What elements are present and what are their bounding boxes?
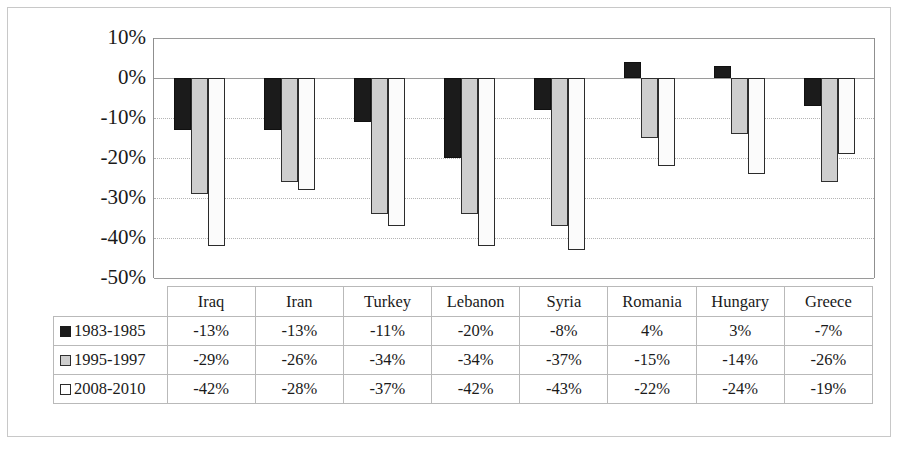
table-cell: -8% (520, 317, 608, 346)
y-axis-tick-label: 10% (8, 27, 146, 48)
table-column-header: Iraq (167, 287, 255, 317)
plot-area (153, 38, 875, 278)
table-cell: 4% (608, 317, 696, 346)
table-column-header: Romania (608, 287, 696, 317)
bar[interactable] (478, 78, 495, 246)
y-axis-tick-label: -20% (8, 147, 146, 168)
bar[interactable] (838, 78, 855, 154)
table-cell: -24% (696, 375, 784, 404)
table-column-header: Iran (255, 287, 343, 317)
bar-group (244, 38, 334, 278)
bar[interactable] (388, 78, 405, 226)
table-cell: -15% (608, 346, 696, 375)
table-cell: -20% (432, 317, 520, 346)
legend-label: 1995-1997 (74, 350, 146, 369)
bar-group (514, 38, 604, 278)
bar[interactable] (371, 78, 388, 214)
table-cell: -13% (167, 317, 255, 346)
bar[interactable] (298, 78, 315, 190)
table-cell: 3% (696, 317, 784, 346)
table-row: 1983-1985-13%-13%-11%-20%-8%4%3%-7% (54, 317, 873, 346)
bar-series-container (154, 38, 874, 278)
table-cell: -22% (608, 375, 696, 404)
bar[interactable] (264, 78, 281, 130)
legend-label: 1983-1985 (74, 321, 146, 340)
table-cell: -7% (784, 317, 872, 346)
legend-entry[interactable]: 2008-2010 (54, 375, 168, 404)
table-cell: -42% (167, 375, 255, 404)
bar[interactable] (641, 78, 658, 138)
bar[interactable] (534, 78, 551, 110)
legend-label: 2008-2010 (74, 379, 146, 398)
bar-group (694, 38, 784, 278)
bar[interactable] (624, 62, 641, 78)
legend-swatch-icon (60, 355, 71, 366)
y-axis-tick-label: -30% (8, 187, 146, 208)
table-corner-cell (54, 287, 168, 317)
table-row: 2008-2010-42%-28%-37%-42%-43%-22%-24%-19… (54, 375, 873, 404)
y-axis-tick-label: -10% (8, 107, 146, 128)
table-cell: -26% (255, 346, 343, 375)
bar-group (334, 38, 424, 278)
bar-group (424, 38, 514, 278)
y-axis-tick-label: -50% (8, 267, 146, 288)
bar[interactable] (281, 78, 298, 182)
table-column-header: Greece (784, 287, 872, 317)
table-column-header: Syria (520, 287, 608, 317)
chart-figure: 10%0%-10%-20%-30%-40%-50% IraqIranTurkey… (7, 7, 891, 437)
bar[interactable] (714, 66, 731, 78)
table-cell: -19% (784, 375, 872, 404)
table-cell: -14% (696, 346, 784, 375)
bar-group (784, 38, 874, 278)
legend-entry[interactable]: 1983-1985 (54, 317, 168, 346)
legend-entry[interactable]: 1995-1997 (54, 346, 168, 375)
bar[interactable] (208, 78, 225, 246)
bar[interactable] (444, 78, 461, 158)
table-cell: -43% (520, 375, 608, 404)
bar-group (604, 38, 694, 278)
bar[interactable] (354, 78, 371, 122)
table-cell: -13% (255, 317, 343, 346)
bar[interactable] (551, 78, 568, 226)
table-cell: -34% (432, 346, 520, 375)
y-axis: 10%0%-10%-20%-30%-40%-50% (8, 8, 146, 318)
table-column-header: Hungary (696, 287, 784, 317)
data-table: IraqIranTurkeyLebanonSyriaRomaniaHungary… (53, 286, 873, 404)
bar[interactable] (731, 78, 748, 134)
table-cell: -26% (784, 346, 872, 375)
bar[interactable] (461, 78, 478, 214)
table-cell: -42% (432, 375, 520, 404)
table-cell: -28% (255, 375, 343, 404)
bar[interactable] (821, 78, 838, 182)
table-header-row: IraqIranTurkeyLebanonSyriaRomaniaHungary… (54, 287, 873, 317)
table-column-header: Lebanon (432, 287, 520, 317)
table-row: 1995-1997-29%-26%-34%-34%-37%-15%-14%-26… (54, 346, 873, 375)
data-table-container: IraqIranTurkeyLebanonSyriaRomaniaHungary… (53, 286, 873, 404)
bar[interactable] (191, 78, 208, 194)
y-axis-tick-label: 0% (8, 67, 146, 88)
bar[interactable] (748, 78, 765, 174)
legend-swatch-icon (60, 326, 71, 337)
bar[interactable] (804, 78, 821, 106)
table-cell: -34% (343, 346, 431, 375)
bar[interactable] (658, 78, 675, 166)
table-column-header: Turkey (343, 287, 431, 317)
bar[interactable] (568, 78, 585, 250)
table-cell: -37% (520, 346, 608, 375)
table-cell: -29% (167, 346, 255, 375)
bar[interactable] (174, 78, 191, 130)
table-cell: -11% (343, 317, 431, 346)
bar-group (154, 38, 244, 278)
gridline (154, 278, 874, 279)
table-cell: -37% (343, 375, 431, 404)
legend-swatch-icon (60, 384, 71, 395)
y-axis-tick-label: -40% (8, 227, 146, 248)
